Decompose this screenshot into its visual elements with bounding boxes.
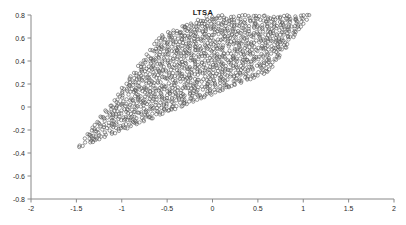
scatter-point <box>264 43 267 46</box>
scatter-point <box>256 74 259 77</box>
x-tick-label: -0.5 <box>161 205 173 212</box>
scatter-point <box>276 16 279 19</box>
scatter-point <box>213 21 216 24</box>
scatter-point <box>148 48 151 51</box>
scatter-point <box>257 70 260 73</box>
y-tick-label: -0.8 <box>13 196 25 203</box>
scatter-point <box>204 75 207 78</box>
scatter-point <box>164 85 167 88</box>
scatter-point <box>148 72 151 75</box>
scatter-point <box>128 84 131 87</box>
scatter-point <box>196 37 199 40</box>
scatter-point <box>157 37 160 40</box>
scatter-point <box>102 123 105 126</box>
scatter-point <box>103 131 106 134</box>
scatter-point <box>261 30 264 33</box>
scatter-point <box>167 52 170 55</box>
scatter-point <box>156 73 159 76</box>
scatter-plot: -2-1.5-1-0.500.511.52 -0.8-0.6-0.4-0.200… <box>0 0 406 225</box>
y-tick-label: 0 <box>21 104 25 111</box>
scatter-point <box>214 61 217 64</box>
scatter-point <box>203 71 206 74</box>
scatter-point <box>218 85 221 88</box>
scatter-point <box>211 71 214 74</box>
scatter-point <box>113 132 116 135</box>
y-tick-label: -0.6 <box>13 173 25 180</box>
scatter-point <box>106 116 109 119</box>
scatter-point <box>302 14 305 17</box>
scatter-point <box>258 14 261 17</box>
scatter-point <box>244 24 247 27</box>
scatter-point <box>125 98 128 101</box>
scatter-point <box>151 112 154 115</box>
scatter-point <box>216 69 219 72</box>
scatter-point <box>254 39 257 42</box>
scatter-point <box>284 21 287 24</box>
axes-group <box>31 15 394 199</box>
scatter-point <box>266 44 269 47</box>
scatter-point <box>305 18 308 21</box>
scatter-point <box>197 24 200 27</box>
scatter-point <box>93 123 96 126</box>
scatter-point <box>83 141 86 144</box>
chart-figure: LTSA -2-1.5-1-0.500.511.52 -0.8-0.6-0.4-… <box>0 0 406 225</box>
scatter-point <box>105 126 108 129</box>
x-tick-label: -1.5 <box>70 205 82 212</box>
scatter-point <box>279 43 282 46</box>
scatter-point <box>235 77 238 80</box>
scatter-point <box>238 57 241 60</box>
scatter-point <box>176 37 179 40</box>
scatter-point <box>163 53 166 56</box>
scatter-point <box>138 121 141 124</box>
scatter-point <box>126 127 129 130</box>
scatter-point <box>118 115 121 118</box>
y-tick-label: 0.4 <box>15 58 25 65</box>
x-tick-label: 1.5 <box>344 205 354 212</box>
x-tick-label: 1 <box>301 205 305 212</box>
scatter-point <box>94 135 97 138</box>
scatter-point <box>243 46 246 49</box>
scatter-point <box>265 50 268 53</box>
scatter-point <box>269 52 272 55</box>
scatter-point <box>249 77 252 80</box>
y-axis-ticks: -0.8-0.6-0.4-0.200.20.40.60.8 <box>13 12 31 203</box>
x-tick-label: -1 <box>119 205 125 212</box>
scatter-point <box>171 71 174 74</box>
scatter-point <box>184 59 187 62</box>
scatter-point <box>232 18 235 21</box>
scatter-point <box>229 73 232 76</box>
scatter-point <box>217 32 220 35</box>
scatter-point <box>154 103 157 106</box>
scatter-point <box>197 57 200 60</box>
scatter-point <box>221 46 224 49</box>
scatter-point <box>141 79 144 82</box>
y-tick-label: 0.6 <box>15 35 25 42</box>
scatter-point <box>257 55 260 58</box>
scatter-point <box>187 100 190 103</box>
y-tick-label: 0.2 <box>15 81 25 88</box>
y-tick-label: 0.8 <box>15 12 25 19</box>
scatter-point <box>129 75 132 78</box>
scatter-point <box>166 40 169 43</box>
x-tick-label: 0.5 <box>253 205 263 212</box>
scatter-point <box>227 31 230 34</box>
scatter-point <box>270 44 273 47</box>
scatter-point <box>175 104 178 107</box>
scatter-point <box>159 101 162 104</box>
scatter-point <box>232 15 235 18</box>
scatter-point <box>267 48 270 51</box>
x-tick-label: -2 <box>28 205 34 212</box>
scatter-point <box>83 137 86 140</box>
scatter-point <box>288 35 291 38</box>
scatter-point <box>124 123 127 126</box>
scatter-point <box>155 50 158 53</box>
scatter-point <box>195 98 198 101</box>
scatter-point <box>157 57 160 60</box>
scatter-point <box>271 61 274 64</box>
scatter-point <box>155 39 158 42</box>
x-tick-label: 2 <box>392 205 396 212</box>
scatter-point <box>128 80 131 83</box>
scatter-points <box>78 13 311 148</box>
scatter-point <box>196 35 199 38</box>
scatter-point <box>135 71 138 74</box>
